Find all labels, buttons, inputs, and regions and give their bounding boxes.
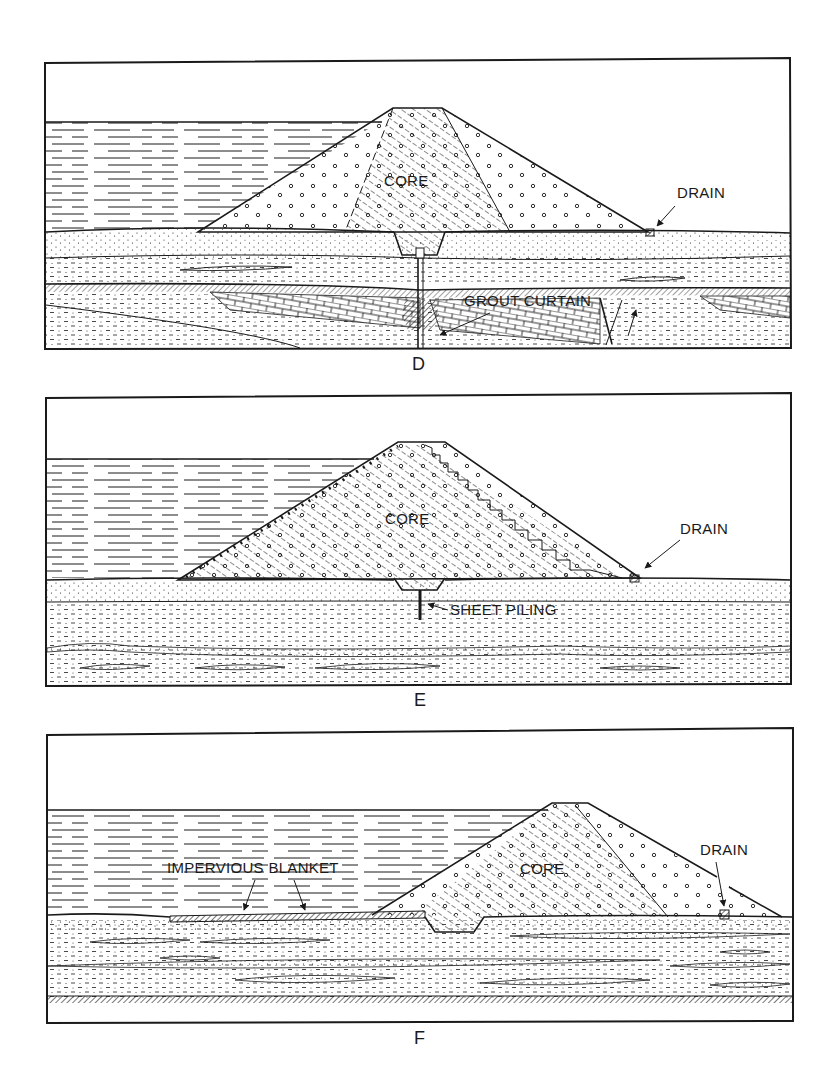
toe-drain xyxy=(646,229,654,236)
label-sheet-piling: SHEET PILING xyxy=(450,601,557,618)
toe-drain xyxy=(630,575,639,582)
label-grout-curtain: GROUT CURTAIN xyxy=(464,292,591,309)
label-drain: DRAIN xyxy=(680,520,728,537)
label-core: CORE xyxy=(384,172,429,189)
toe-drain xyxy=(720,910,729,919)
bedrock xyxy=(48,996,793,1003)
panel-f: CORE DRAIN IMPERVIOUS BLANKET F xyxy=(47,728,793,1048)
label-drain: DRAIN xyxy=(700,841,748,858)
label-impervious-blanket: IMPERVIOUS BLANKET xyxy=(167,859,339,876)
label-core: CORE xyxy=(520,860,565,877)
panel-e: CORE DRAIN SHEET PILING E xyxy=(46,393,791,710)
panel-caption-e: E xyxy=(414,690,426,710)
dam-cross-sections-figure: CORE DRAIN GROUT CURTAIN D xyxy=(0,0,837,1086)
label-core: CORE xyxy=(385,510,430,527)
panel-caption-d: D xyxy=(412,354,425,374)
panel-caption-f: F xyxy=(414,1028,425,1048)
panel-d: CORE DRAIN GROUT CURTAIN D xyxy=(45,58,791,374)
label-drain: DRAIN xyxy=(677,184,725,201)
